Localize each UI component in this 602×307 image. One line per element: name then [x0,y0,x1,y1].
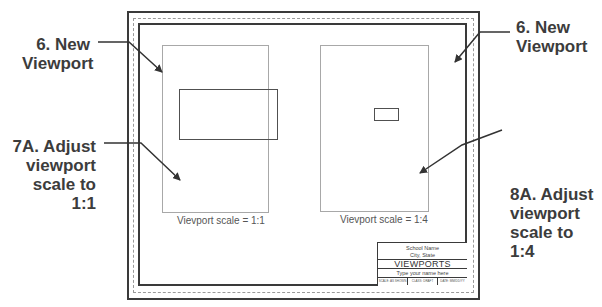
callout-line: scale to 1:4 [510,223,602,261]
callout-line: 6. New [516,18,602,37]
callout-line: 7A. Adjust [10,137,96,156]
callout-line: Viewport [22,54,90,73]
callout-line: viewport [510,204,602,223]
callout-line: Viewport [516,37,602,56]
arrow-left-top-icon [98,42,162,72]
callout-line: scale to 1:1 [10,175,96,213]
callout-line: 6. New [22,35,90,54]
callout-new-viewport-left: 6. New Viewport [22,35,90,73]
arrow-right-top-icon [455,32,510,62]
callout-line: viewport [10,156,96,175]
arrow-right-bottom-icon [420,130,502,173]
callout-line: 8A. Adjust [510,185,602,204]
callout-adjust-scale-1-1: 7A. Adjust viewport scale to 1:1 [10,137,96,213]
callout-adjust-scale-1-4: 8A. Adjust viewport scale to 1:4 [510,185,602,261]
callout-new-viewport-right: 6. New Viewport [516,18,602,56]
arrow-left-bottom-icon [104,143,180,180]
